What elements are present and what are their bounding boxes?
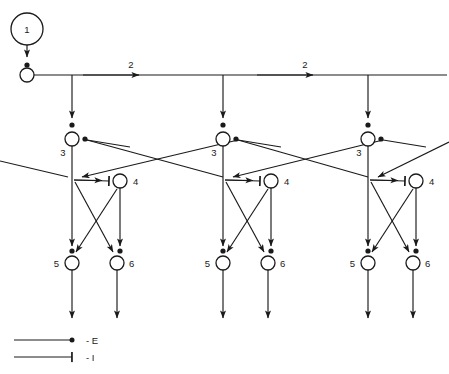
col1-node-6-circle: [261, 256, 275, 270]
col1-node5-input-dot: [220, 248, 225, 253]
col0-cross-node4-to-node5: [76, 189, 117, 252]
bus-junction-node: [20, 68, 34, 82]
col0-cross-junction-to-node6: [75, 182, 113, 252]
col0-left-edge-diagonal: [0, 161, 68, 177]
col0-node-3-label: 3: [60, 147, 65, 158]
col2-node-3-label: 3: [356, 147, 361, 158]
col1-cross-node4-to-node5: [227, 189, 268, 252]
node-1-label: 1: [24, 24, 29, 35]
source-terminal-dot: [24, 62, 29, 67]
col1-node-4-label: 4: [284, 176, 289, 187]
col2-lateral-stub: [383, 140, 426, 147]
col0-node3-lateral-dot: [82, 136, 87, 141]
col1-junction-to-node4-arrow: [225, 180, 253, 181]
col2-node-3-circle: [361, 132, 375, 146]
col1-node6-input-dot: [268, 248, 273, 253]
col2-node3-lateral-dot: [378, 136, 383, 141]
col2-node-4-label: 4: [429, 176, 434, 187]
col0-node-3-circle: [65, 132, 79, 146]
col0-node-4-label: 4: [133, 176, 138, 187]
circuit-diagram: 122345634563456- E- I: [0, 0, 449, 374]
col1-cross-junction-to-node6: [226, 182, 264, 252]
col2-node5-input-dot: [365, 248, 370, 253]
col1-node-5-circle: [216, 256, 230, 270]
col2-node-5-label: 5: [350, 258, 355, 269]
col2-node-6-label: 6: [425, 258, 430, 269]
legend-label-0: - E: [86, 335, 98, 346]
col0-node-6-circle: [110, 256, 124, 270]
col1-node-3-label: 3: [211, 147, 216, 158]
legend-label-1: - I: [86, 352, 94, 363]
col0-node6-input-dot: [117, 248, 122, 253]
col2-cross-node4-to-node5: [372, 189, 413, 252]
col2-back-diagonal-edge: [378, 142, 449, 177]
col2-node-5-circle: [361, 256, 375, 270]
col2-cross-junction-to-node6: [371, 182, 409, 252]
col0-node5-input-dot: [69, 248, 74, 253]
col1-node-5-label: 5: [205, 258, 210, 269]
col2-junction-to-node4-arrow: [370, 180, 398, 181]
col0-node-5-circle: [65, 256, 79, 270]
col1-node-4-circle: [264, 174, 278, 188]
col0-node-5-label: 5: [54, 258, 59, 269]
col0-node-6-label: 6: [129, 258, 134, 269]
col2-node6-input-dot: [413, 248, 418, 253]
col1-node-3-circle: [216, 132, 230, 146]
bus-segment-label-1: 2: [302, 59, 307, 70]
diagram-canvas: 122345634563456- E- I: [0, 0, 449, 374]
col0-node-4-circle: [113, 174, 127, 188]
col2-node3-input-dot: [365, 122, 370, 127]
col2-node-4-circle: [409, 174, 423, 188]
col0-junction-to-node4-arrow: [74, 180, 102, 181]
col2-node-6-circle: [406, 256, 420, 270]
col1-node-6-label: 6: [280, 258, 285, 269]
col1-node3-lateral-dot: [233, 136, 238, 141]
col1-node3-input-dot: [220, 122, 225, 127]
bus-segment-label-0: 2: [128, 59, 133, 70]
col0-node3-input-dot: [69, 122, 74, 127]
